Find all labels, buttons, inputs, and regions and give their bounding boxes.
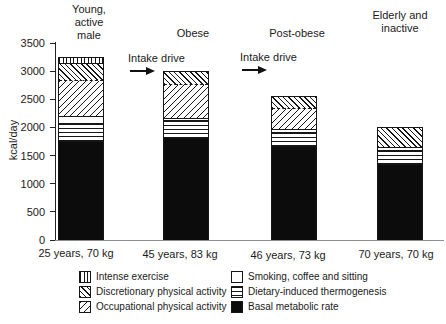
diagonal-hatch-down-swatch-icon [79, 286, 91, 298]
bar-header-post-obese: Post-obese [260, 27, 334, 40]
legend-left-column: Intense exercise Discretionary physical … [79, 271, 227, 312]
y-axis-label: kcal/day [7, 100, 21, 180]
bar-elderly-and-inactive [377, 127, 423, 240]
legend-right-column: Smoking, coffee and sitting Dietary-indu… [231, 271, 386, 312]
annotation-intake-drive-obese: Intake drive [128, 52, 185, 72]
legend-item-intense-exercise: Intense exercise [79, 271, 227, 282]
legend-label: Dietary-induced thermogenesis [248, 286, 386, 297]
segment-occupational [164, 84, 208, 118]
y-tick-2000 [50, 127, 55, 128]
legend-item-smoking-coffee-sitting: Smoking, coffee and sitting [231, 271, 386, 282]
segment-thermogenesis [378, 150, 422, 164]
legend-item-discretionary-physical-activity: Discretionary physical activity [79, 286, 227, 297]
y-tick-1000 [50, 183, 55, 184]
y-axis-line [55, 42, 56, 240]
y-tick-2500 [50, 99, 55, 100]
segment-bmr [59, 141, 103, 240]
solid-black-swatch-icon [231, 301, 243, 313]
energy-expenditure-stacked-bar-chart: kcal/day 0500100015002000250030003500 Yo… [0, 0, 446, 324]
segment-discretionary [378, 127, 422, 147]
y-tick-label-2000: 2000 [0, 121, 45, 133]
x-label-46-years-73-kg: 46 years, 73 kg [246, 249, 330, 261]
y-tick-0 [50, 240, 55, 241]
legend-label: Intense exercise [96, 271, 169, 282]
legend-item-occupational-physical-activity: Occupational physical activity [79, 301, 227, 312]
segment-intense [59, 57, 103, 63]
segment-thermogenesis [59, 123, 103, 141]
segment-bmr [164, 137, 208, 240]
segment-smoking [272, 129, 316, 132]
bar-young-active-male [58, 57, 104, 240]
y-tick-label-500: 500 [0, 206, 45, 218]
legend-item-basal-metabolic-rate: Basal metabolic rate [231, 301, 386, 312]
segment-smoking [59, 116, 103, 123]
y-tick-label-2500: 2500 [0, 93, 45, 105]
right-arrow-icon [242, 69, 258, 71]
segment-discretionary [272, 96, 316, 107]
plain-white-swatch-icon [231, 271, 243, 283]
bar-post-obese [271, 96, 317, 240]
bar-header-young-active-male: Young, active male [58, 3, 120, 42]
bar-obese [163, 71, 209, 240]
vertical-lines-swatch-icon [79, 271, 91, 283]
segment-thermogenesis [164, 120, 208, 137]
bar-header-obese: Obese [160, 27, 226, 40]
y-tick-500 [50, 211, 55, 212]
annotation-intake-drive-post-obese: Intake drive [240, 51, 297, 71]
legend-item-dietary-induced-thermogenesis: Dietary-induced thermogenesis [231, 286, 386, 297]
y-tick-label-3000: 3000 [0, 65, 45, 77]
x-label-70-years-70-kg: 70 years, 70 kg [354, 248, 438, 260]
segment-smoking [164, 118, 208, 121]
y-tick-3000 [50, 71, 55, 72]
segment-occupational [59, 80, 103, 117]
segment-bmr [272, 146, 316, 240]
right-arrow-icon [130, 70, 146, 72]
horizontal-lines-swatch-icon [231, 286, 243, 298]
x-label-45-years-83-kg: 45 years, 83 kg [138, 248, 222, 260]
legend-label: Smoking, coffee and sitting [248, 271, 368, 282]
segment-smoking [378, 147, 422, 150]
segment-discretionary [59, 63, 103, 80]
x-label-25-years-70-kg: 25 years, 70 kg [34, 247, 118, 259]
diagonal-hatch-up-swatch-icon [79, 301, 91, 313]
bar-header-elderly-inactive: Elderly and inactive [363, 9, 437, 35]
y-tick-1500 [50, 155, 55, 156]
segment-occupational [272, 108, 316, 129]
segment-bmr [378, 164, 422, 240]
y-tick-3500 [50, 43, 55, 44]
x-axis-line [55, 240, 444, 241]
y-tick-label-1000: 1000 [0, 178, 45, 190]
legend-label: Occupational physical activity [96, 301, 227, 312]
segment-thermogenesis [272, 132, 316, 146]
segment-discretionary [164, 71, 208, 84]
y-tick-label-1500: 1500 [0, 150, 45, 162]
annotation-text: Intake drive [128, 52, 185, 64]
y-tick-label-3500: 3500 [0, 37, 45, 49]
legend-label: Discretionary physical activity [96, 286, 227, 297]
y-tick-label-0: 0 [0, 234, 45, 246]
legend-label: Basal metabolic rate [248, 301, 339, 312]
annotation-text: Intake drive [240, 51, 297, 63]
